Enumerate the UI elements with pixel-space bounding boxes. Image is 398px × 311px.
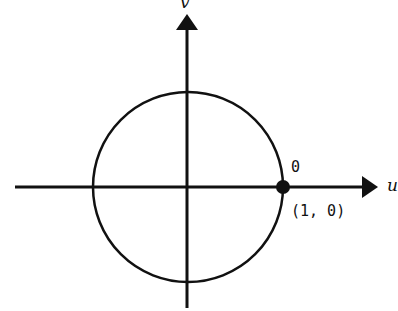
v-axis-arrow-icon [176, 14, 198, 30]
u-axis-arrow-icon [362, 176, 378, 198]
angle-label: 0 [291, 158, 300, 176]
coordinate-label: (1, 0) [291, 202, 345, 220]
u-axis-label: u [387, 175, 398, 195]
v-axis-label: v [180, 0, 190, 12]
point-marker [276, 180, 290, 194]
